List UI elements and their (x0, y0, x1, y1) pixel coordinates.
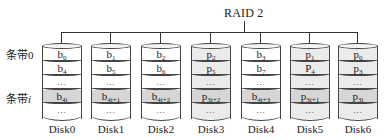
block-symbol: … (106, 77, 116, 87)
stripe-block: p5 (192, 62, 230, 74)
ellipsis-block: … (43, 76, 81, 88)
stripe-block: b2 (142, 48, 180, 60)
disk-label: Disk5 (285, 123, 335, 135)
disk-bottom-cap (42, 115, 82, 121)
disk-4: b3b7…b4i+3… (241, 43, 281, 121)
disk-top-cap (141, 43, 181, 49)
block-symbol: … (206, 77, 216, 87)
disk-6: p0p3…p3i… (338, 43, 378, 121)
block-symbol: … (57, 77, 67, 87)
disk-label: Disk4 (236, 123, 286, 135)
stripe-label-0: 条带0 (6, 46, 34, 62)
disk-label: Disk1 (86, 123, 136, 135)
block-symbol: … (57, 105, 67, 115)
disk-1: b1b5…b4i+1… (91, 43, 131, 121)
stripe-label-i: 条带i (6, 90, 31, 106)
disk-label: Disk6 (333, 123, 383, 135)
title-connector (244, 21, 245, 32)
disk-3: p2p5…p3i+2… (191, 43, 231, 121)
disk-bottom-cap (141, 115, 181, 121)
stripe-block: b6 (142, 62, 180, 74)
disk-bottom-cap (241, 115, 281, 121)
block-symbol: … (206, 105, 216, 115)
disk-bottom-cap (191, 115, 231, 121)
stripe-block: p3i+2 (192, 90, 230, 102)
stripe-block: b4i+3 (242, 90, 280, 102)
stripe-block: p3 (339, 62, 377, 74)
disk-top-cap (191, 43, 231, 49)
disk-top-cap (241, 43, 281, 49)
block-symbol: … (353, 77, 363, 87)
stripe-block: b3 (242, 48, 280, 60)
disk-label: Disk0 (37, 123, 87, 135)
block-symbol: … (106, 105, 116, 115)
stripe-block: b4i+1 (92, 90, 130, 102)
stripe-block: p1 (291, 48, 329, 60)
disk-top-cap (338, 43, 378, 49)
disk-label: Disk2 (136, 123, 186, 135)
stripe-block: b1 (92, 48, 130, 60)
stripe-block: p0 (339, 48, 377, 60)
disk-top-cap (42, 43, 82, 49)
block-symbol: … (353, 105, 363, 115)
disk-5: p1P4…p3i+1… (290, 43, 330, 121)
stripe-block: b5 (92, 62, 130, 74)
ellipsis-block: … (192, 76, 230, 88)
stripe-block: b4 (43, 62, 81, 74)
ellipsis-block: … (142, 76, 180, 88)
disk-bottom-cap (338, 115, 378, 121)
ellipsis-block: … (339, 76, 377, 88)
stripe-block: b4i (43, 90, 81, 102)
stripe-prefix: 条带 (6, 49, 28, 61)
disk-top-cap (290, 43, 330, 49)
stripe-block: b0 (43, 48, 81, 60)
stripe-block: b4i+2 (142, 90, 180, 102)
block-symbol: … (305, 77, 315, 87)
stripe-block: p2 (192, 48, 230, 60)
ellipsis-block: … (242, 76, 280, 88)
stripe-index: 0 (28, 49, 34, 61)
block-symbol: … (305, 105, 315, 115)
disk-2: b2b6…b4i+2… (141, 43, 181, 121)
block-symbol: … (256, 77, 266, 87)
stripe-index: i (28, 93, 31, 105)
block-symbol: … (156, 77, 166, 87)
diagram-title: RAID 2 (224, 6, 264, 21)
disk-bottom-cap (290, 115, 330, 121)
stripe-block: p3i (339, 90, 377, 102)
ellipsis-block: … (291, 76, 329, 88)
disk-bottom-cap (91, 115, 131, 121)
stripe-block: P4 (291, 62, 329, 74)
disk-top-cap (91, 43, 131, 49)
disk-0: b0b4…b4i… (42, 43, 82, 121)
stripe-prefix: 条带 (6, 93, 28, 105)
stripe-block: p3i+1 (291, 90, 329, 102)
block-symbol: … (156, 105, 166, 115)
disk-label: Disk3 (186, 123, 236, 135)
stripe-block: b7 (242, 62, 280, 74)
ellipsis-block: … (92, 76, 130, 88)
block-symbol: … (256, 105, 266, 115)
